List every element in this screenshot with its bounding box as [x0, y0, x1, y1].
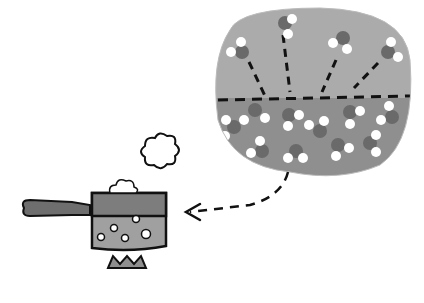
saucepan — [23, 180, 166, 268]
steam-cloud-icon — [141, 133, 179, 168]
pan-rim — [92, 193, 166, 216]
pan-handle — [23, 200, 90, 216]
zoom-arrow — [186, 172, 288, 220]
steam-puff-icon — [110, 180, 138, 193]
zoom-bubble — [200, 0, 424, 198]
flame-icon — [108, 256, 146, 268]
evaporation-illustration — [0, 0, 424, 303]
